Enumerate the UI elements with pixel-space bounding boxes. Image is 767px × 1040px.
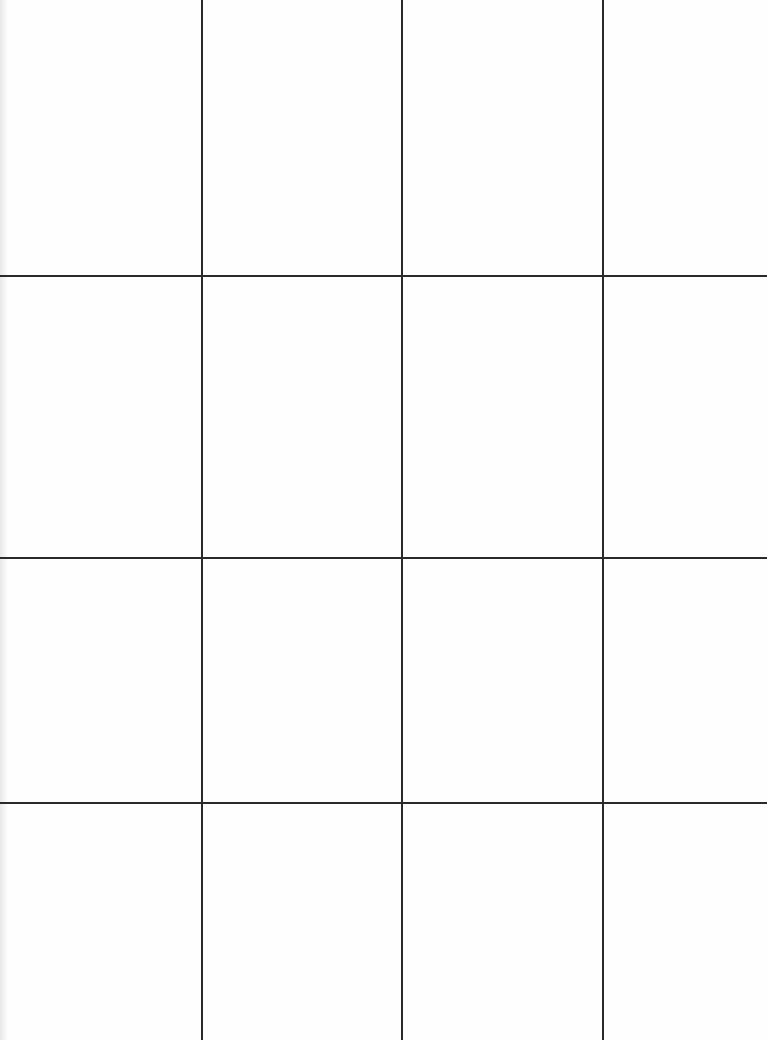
- grid-horizontal-line: [0, 557, 767, 559]
- grid-horizontal-line: [0, 275, 767, 277]
- scan-edge-shadow: [0, 0, 8, 1040]
- grid-horizontal-line: [0, 802, 767, 804]
- grid-vertical-line: [401, 0, 403, 1040]
- grid-vertical-line: [201, 0, 203, 1040]
- grid-vertical-line: [602, 0, 604, 1040]
